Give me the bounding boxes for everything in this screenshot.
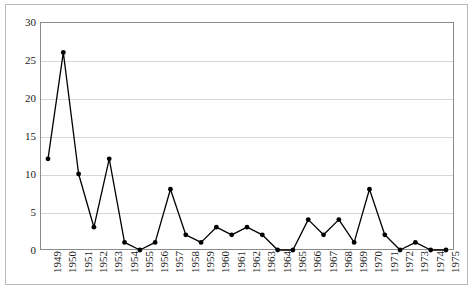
x-tick-label-1968: 1968 [343, 251, 354, 273]
line-series [40, 22, 454, 250]
x-tick-label-1961: 1961 [236, 251, 247, 273]
x-tick-label-1967: 1967 [328, 251, 339, 273]
x-tick-label-1965: 1965 [297, 251, 308, 273]
x-tick-label-1966: 1966 [312, 251, 323, 273]
data-point-1956 [153, 240, 158, 245]
x-tick-label-1969: 1969 [358, 251, 369, 273]
x-tick-label-1952: 1952 [98, 251, 109, 273]
x-tick-label-1960: 1960 [220, 251, 231, 273]
x-tick-label-1975: 1975 [450, 251, 461, 273]
data-point-1954 [122, 240, 127, 245]
y-tick-label-25: 25 [10, 55, 36, 66]
data-point-1967 [321, 232, 326, 237]
y-tick-label-0: 0 [10, 245, 36, 256]
data-point-1953 [107, 156, 112, 161]
x-tick-label-1954: 1954 [129, 251, 140, 273]
x-tick-label-1964: 1964 [282, 251, 293, 273]
x-tick-label-1963: 1963 [266, 251, 277, 273]
data-point-1958 [183, 232, 188, 237]
series-line [48, 52, 446, 250]
x-tick-label-1974: 1974 [435, 251, 446, 273]
data-point-1973 [413, 240, 418, 245]
data-point-1951 [76, 172, 81, 177]
data-point-1950 [61, 50, 66, 55]
y-tick-label-20: 20 [10, 93, 36, 104]
x-tick-label-1950: 1950 [67, 251, 78, 273]
data-point-1969 [352, 240, 357, 245]
data-point-1968 [336, 217, 341, 222]
data-point-1961 [229, 232, 234, 237]
series-markers [46, 50, 449, 252]
data-point-1970 [367, 187, 372, 192]
data-point-1949 [46, 156, 51, 161]
data-point-1971 [382, 232, 387, 237]
x-tick-label-1973: 1973 [419, 251, 430, 273]
x-tick-label-1958: 1958 [190, 251, 201, 273]
data-point-1959 [199, 240, 204, 245]
y-tick-label-10: 10 [10, 169, 36, 180]
data-point-1962 [245, 225, 250, 230]
x-tick-label-1959: 1959 [205, 251, 216, 273]
data-point-1952 [92, 225, 97, 230]
x-tick-label-1953: 1953 [113, 251, 124, 273]
data-point-1960 [214, 225, 219, 230]
x-tick-label-1970: 1970 [373, 251, 384, 273]
y-tick-label-30: 30 [10, 17, 36, 28]
x-tick-label-1972: 1972 [404, 251, 415, 273]
data-point-1963 [260, 232, 265, 237]
x-tick-label-1951: 1951 [83, 251, 94, 273]
x-tick-label-1949: 1949 [52, 251, 63, 273]
x-tick-label-1955: 1955 [144, 251, 155, 273]
y-tick-label-5: 5 [10, 207, 36, 218]
chart-outer-frame: 051015202530 194919501951195219531954195… [5, 4, 468, 285]
data-point-1966 [306, 217, 311, 222]
x-tick-label-1971: 1971 [389, 251, 400, 273]
data-point-1957 [168, 187, 173, 192]
y-tick-label-15: 15 [10, 131, 36, 142]
x-axis-tick-labels: 1949195019511952195319541955195619571958… [40, 251, 454, 291]
x-tick-label-1956: 1956 [159, 251, 170, 273]
y-axis-tick-labels: 051015202530 [6, 22, 36, 250]
x-tick-label-1957: 1957 [174, 251, 185, 273]
x-tick-label-1962: 1962 [251, 251, 262, 273]
